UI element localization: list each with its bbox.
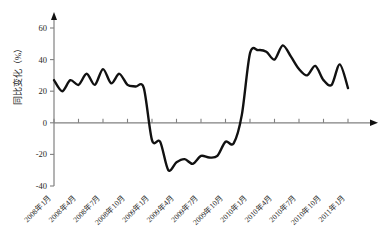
y-tick-label: 40: [39, 55, 48, 65]
series-line: [54, 45, 348, 170]
y-tick-label: 20: [39, 86, 48, 96]
y-tick-label: -20: [36, 149, 47, 159]
y-tick-label: -40: [36, 181, 47, 191]
x-axis-tick-labels: 2008年1月2008年4月2008年7月2008年10月2009年1月2009…: [22, 192, 348, 226]
x-axis: [54, 119, 378, 126]
line-chart-plot: -40-200204060 2008年1月2008年4月2008年7月2008年…: [0, 0, 385, 251]
y-tick-label: 0: [43, 118, 47, 128]
data-series: [54, 45, 348, 170]
chart-container: 同比变化（%） -40-200204060 2008年1月2008年4月2008…: [0, 0, 385, 251]
y-axis: -40-200204060: [36, 12, 57, 191]
y-tick-label: 60: [39, 23, 48, 33]
